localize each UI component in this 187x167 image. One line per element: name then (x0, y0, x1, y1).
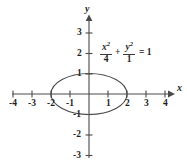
y-term-denominator: 1 (125, 55, 134, 65)
x-term-denominator: 4 (102, 55, 111, 65)
x-term-fraction: x2 4 (100, 41, 112, 65)
y-tick-label--2: -2 (73, 130, 81, 140)
graph-figure: -4 -3 -2 -1 1 2 3 4 3 2 1 -1 -2 -3 x y x… (0, 0, 187, 167)
y-axis-label: y (85, 4, 89, 14)
x-tick-label--2: -2 (47, 99, 55, 109)
x-tick-label-1: 1 (106, 99, 111, 109)
coordinate-plane-svg (0, 0, 187, 167)
x-tick-label-2: 2 (125, 99, 130, 109)
x-axis-label: x (177, 83, 182, 93)
plus-operator: + (112, 48, 123, 58)
x-tick-label--1: -1 (66, 99, 74, 109)
y-term-fraction: y2 1 (123, 41, 134, 65)
x-term-numerator: x2 (100, 41, 112, 53)
ellipse-equation: x2 4 + y2 1 = 1 (100, 41, 151, 65)
x-tick-label--4: -4 (9, 99, 17, 109)
y-axis-arrowhead (86, 15, 93, 22)
y-tick-label--3: -3 (73, 151, 81, 161)
x-tick-label-3: 3 (144, 99, 149, 109)
y-tick-label-2: 2 (77, 49, 82, 59)
x-tick-label--3: -3 (28, 99, 36, 109)
y-term-numerator: y2 (123, 41, 134, 53)
x-axis-arrowhead (168, 91, 175, 98)
x-tick-label-4: 4 (163, 99, 168, 109)
y-tick-label-1: 1 (77, 69, 82, 79)
equation-right-hand-side: = 1 (135, 48, 152, 58)
y-tick-label-3: 3 (77, 28, 82, 38)
y-tick-label--1: -1 (73, 110, 81, 120)
